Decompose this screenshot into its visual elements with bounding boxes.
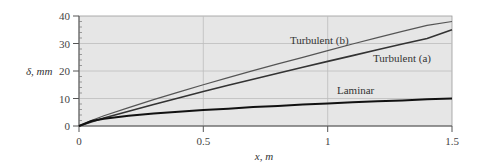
- y-tick-label: 40: [59, 10, 71, 22]
- y-axis: [73, 16, 79, 126]
- turbulent-a-label: Turbulent (a): [373, 52, 431, 65]
- y-tick-label: 20: [59, 65, 71, 77]
- x-axis-label: x, m: [254, 150, 273, 162]
- chart: 0 10 20 30 40 δ, mm 0 0.5 1 1.5 x, m Tur…: [0, 0, 488, 168]
- y-axis-label: δ, mm: [26, 65, 53, 77]
- x-tick-label: 1.5: [445, 135, 459, 147]
- x-tick-label: 1: [325, 135, 331, 147]
- x-axis: [79, 126, 452, 132]
- y-tick-label: 0: [65, 120, 71, 132]
- y-tick-label: 30: [59, 38, 71, 50]
- turbulent-b-label: Turbulent (b): [290, 34, 349, 47]
- laminar-label: Laminar: [337, 84, 375, 96]
- x-tick-label: 0: [76, 135, 82, 147]
- x-tick-label: 0.5: [196, 135, 210, 147]
- y-tick-label: 10: [59, 93, 71, 105]
